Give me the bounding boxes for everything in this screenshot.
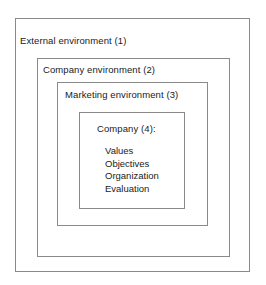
list-item: Evaluation [105, 183, 159, 196]
company-label: Company (4): [97, 123, 156, 134]
nested-environment-diagram: External environment (1) Company environ… [0, 0, 266, 285]
company-environment-label: Company environment (2) [43, 64, 155, 75]
list-item: Values [105, 145, 159, 158]
list-item: Organization [105, 170, 159, 183]
list-item: Objectives [105, 158, 159, 171]
marketing-environment-label: Marketing environment (3) [65, 89, 178, 100]
external-environment-label: External environment (1) [20, 35, 126, 46]
company-attributes-list: Values Objectives Organization Evaluatio… [105, 145, 159, 195]
